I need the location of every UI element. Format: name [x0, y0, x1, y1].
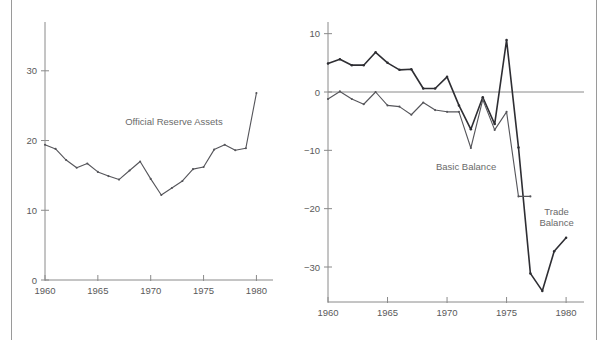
data-point	[541, 290, 544, 293]
data-point	[505, 39, 508, 42]
data-point	[434, 109, 436, 111]
series-line-basic-balance	[328, 91, 530, 196]
data-point	[398, 69, 401, 72]
data-point	[86, 163, 88, 165]
y-tick-label: 10	[26, 205, 37, 216]
data-point	[529, 272, 532, 275]
data-point	[482, 99, 484, 101]
data-point	[245, 147, 247, 149]
annotation-official-reserve-assets: Official Reserve Assets	[125, 116, 223, 127]
data-point	[97, 171, 99, 173]
data-point	[339, 90, 341, 92]
data-point	[434, 87, 437, 90]
data-point	[410, 68, 413, 71]
data-point	[470, 147, 472, 149]
right-annotations: Basic BalanceTradeBalance	[436, 161, 574, 229]
data-point	[517, 146, 520, 149]
data-point	[65, 159, 67, 161]
data-point	[255, 92, 257, 94]
y-tick-label: 20	[26, 135, 37, 146]
data-point	[517, 195, 519, 197]
y-tick-label: −20	[304, 203, 320, 214]
data-point	[55, 148, 57, 150]
data-point	[553, 250, 556, 253]
x-tick-label: 1970	[436, 307, 457, 318]
x-tick-label: 1960	[34, 285, 55, 296]
annotation-basic-balance: Basic Balance	[436, 161, 496, 172]
x-tick-label: 1980	[556, 307, 577, 318]
data-point	[458, 111, 460, 113]
data-point	[493, 123, 496, 126]
data-point	[446, 111, 448, 113]
data-point	[506, 111, 508, 113]
data-point	[213, 149, 215, 151]
chart-trade-and-basic-balance: 100−10−20−3019601965197019751980 Basic B…	[300, 0, 608, 340]
data-point	[398, 106, 400, 108]
y-tick-label: −30	[304, 262, 320, 273]
data-point	[422, 101, 424, 103]
x-tick-label: 1980	[246, 285, 267, 296]
data-point	[224, 144, 226, 146]
annotation-balance: Balance	[539, 217, 573, 228]
data-point	[351, 64, 354, 67]
data-point	[160, 194, 162, 196]
data-point	[107, 175, 109, 177]
data-point	[139, 160, 141, 162]
annotation-trade: Trade	[544, 206, 568, 217]
data-point	[150, 178, 152, 180]
data-point	[410, 114, 412, 116]
right-tick-labels: 100−10−20−3019601965197019751980	[304, 28, 577, 318]
chart-official-reserve-assets: 010203019601965197019751980 Official Res…	[0, 0, 300, 340]
data-point	[118, 179, 120, 181]
data-point	[339, 58, 342, 61]
data-point	[171, 187, 173, 189]
data-point	[494, 129, 496, 131]
data-point	[422, 87, 425, 90]
y-tick-label: −10	[304, 145, 320, 156]
data-point	[327, 62, 330, 65]
y-tick-label: 0	[32, 275, 37, 286]
data-point	[446, 76, 449, 79]
data-point	[327, 98, 329, 100]
data-point	[351, 98, 353, 100]
data-point	[129, 169, 131, 171]
data-point	[76, 167, 78, 169]
x-tick-label: 1975	[193, 285, 214, 296]
left-tick-labels: 010203019601965197019751980	[26, 65, 267, 296]
x-tick-label: 1975	[496, 307, 517, 318]
data-point	[386, 62, 389, 65]
x-tick-label: 1965	[377, 307, 398, 318]
data-point	[482, 96, 485, 99]
data-point	[386, 104, 388, 106]
data-point	[234, 149, 236, 151]
x-tick-label: 1960	[317, 307, 338, 318]
data-point	[44, 144, 46, 146]
data-point	[192, 168, 194, 170]
data-point	[375, 91, 377, 93]
data-point	[458, 104, 461, 107]
data-point	[181, 180, 183, 182]
left-axes	[41, 22, 273, 281]
x-tick-label: 1965	[87, 285, 108, 296]
y-tick-label: 30	[26, 65, 37, 76]
data-point	[362, 64, 365, 67]
y-tick-label: 0	[315, 87, 320, 98]
data-point	[529, 195, 531, 197]
data-point	[203, 166, 205, 168]
data-point	[374, 51, 377, 54]
data-point	[363, 103, 365, 105]
data-point	[470, 128, 473, 131]
figure-canvas: 010203019601965197019751980 Official Res…	[0, 0, 608, 340]
y-tick-label: 10	[309, 28, 320, 39]
data-point	[565, 237, 568, 240]
left-series-group	[44, 92, 258, 196]
x-tick-label: 1970	[140, 285, 161, 296]
